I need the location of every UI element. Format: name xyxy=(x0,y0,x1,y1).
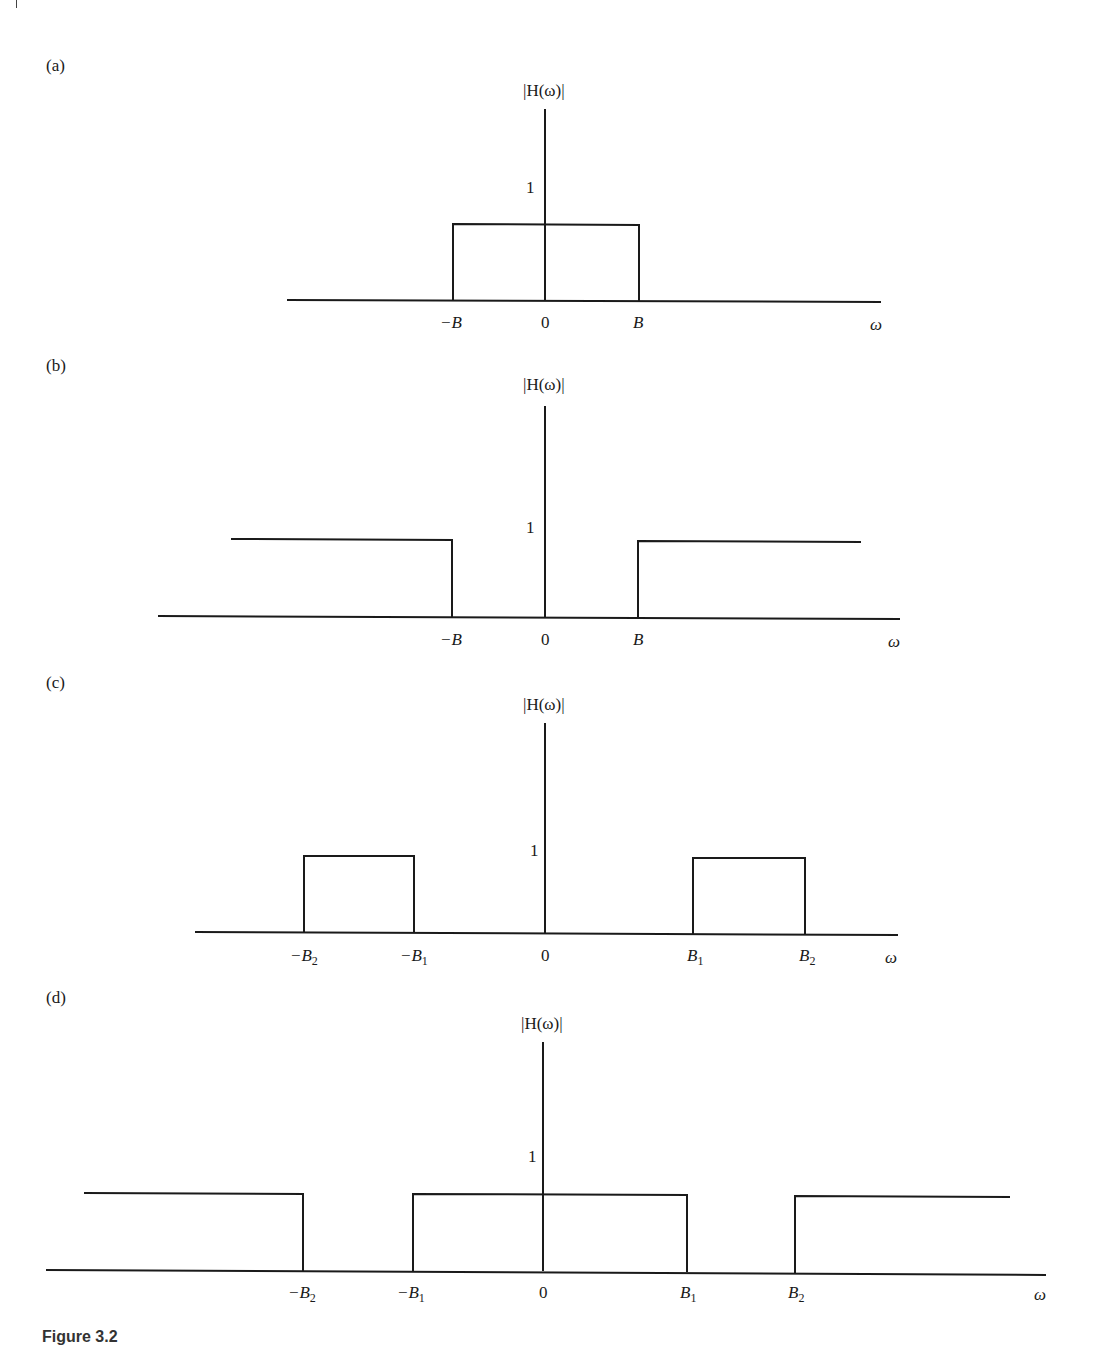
panel-c-plot xyxy=(195,723,898,935)
panel-d-plot xyxy=(46,1042,1046,1275)
panel-c-ytick-1: 1 xyxy=(530,841,539,860)
panel-d-xlabel: ω xyxy=(1034,1285,1046,1304)
panel-d-xtick-b1: B1 xyxy=(680,1283,696,1305)
panel-d-label: (d) xyxy=(46,988,66,1007)
panel-b-left-band xyxy=(231,539,452,617)
panel-d-xtick-b2: B2 xyxy=(788,1283,804,1305)
panel-d-ylabel: |H(ω)| xyxy=(521,1014,563,1033)
panel-c-right-band xyxy=(693,858,805,935)
panel-b-ylabel: |H(ω)| xyxy=(523,375,565,394)
panel-c-label: (c) xyxy=(46,673,65,692)
panel-a-xtick-zero: 0 xyxy=(541,313,550,332)
panel-d-xtick-neg-b1: −B1 xyxy=(397,1283,425,1305)
panel-b-xtick-neg-b: −B xyxy=(440,630,462,649)
panel-b-label: (b) xyxy=(46,356,66,375)
panel-c-xtick-neg-b2: −B2 xyxy=(290,946,318,968)
panel-a-plot xyxy=(287,109,881,302)
panel-d-xtick-zero: 0 xyxy=(539,1283,548,1302)
panel-b-x-axis xyxy=(158,616,900,619)
panel-a-x-axis xyxy=(287,300,881,302)
figure-caption: Figure 3.2 xyxy=(42,1328,118,1346)
panel-c-xtick-neg-b1: −B1 xyxy=(400,946,428,968)
panel-d-xtick-neg-b2: −B2 xyxy=(288,1283,316,1305)
panel-c-xtick-b2: B2 xyxy=(799,946,815,968)
panel-b-xtick-zero: 0 xyxy=(541,630,550,649)
panel-c-xtick-b1: B1 xyxy=(687,946,703,968)
panel-c-x-axis xyxy=(195,932,898,935)
panel-a-xlabel: ω xyxy=(870,315,882,334)
panel-a-label: (a) xyxy=(46,56,65,75)
panel-a-xtick-neg-b: −B xyxy=(440,313,462,332)
panel-d-middle-band xyxy=(413,1194,687,1272)
panel-a-ytick-1: 1 xyxy=(526,178,535,197)
panel-c-xlabel: ω xyxy=(885,948,897,967)
panel-b-ytick-1: 1 xyxy=(526,518,535,537)
panel-d-right-band xyxy=(795,1196,1010,1273)
panel-b-plot xyxy=(158,406,900,619)
panel-a-xtick-b: B xyxy=(633,313,644,332)
panel-b-xtick-b: B xyxy=(633,630,644,649)
panel-c-ylabel: |H(ω)| xyxy=(523,695,565,714)
panel-a-ylabel: |H(ω)| xyxy=(523,81,565,100)
panel-b-right-band xyxy=(638,541,861,618)
panel-c-left-band xyxy=(304,856,414,933)
panel-d-left-band xyxy=(84,1193,303,1271)
panel-d-x-axis xyxy=(46,1270,1046,1275)
panel-d-ytick-1: 1 xyxy=(528,1147,537,1166)
panel-b-xlabel: ω xyxy=(888,632,900,651)
panel-c-xtick-zero: 0 xyxy=(541,946,550,965)
